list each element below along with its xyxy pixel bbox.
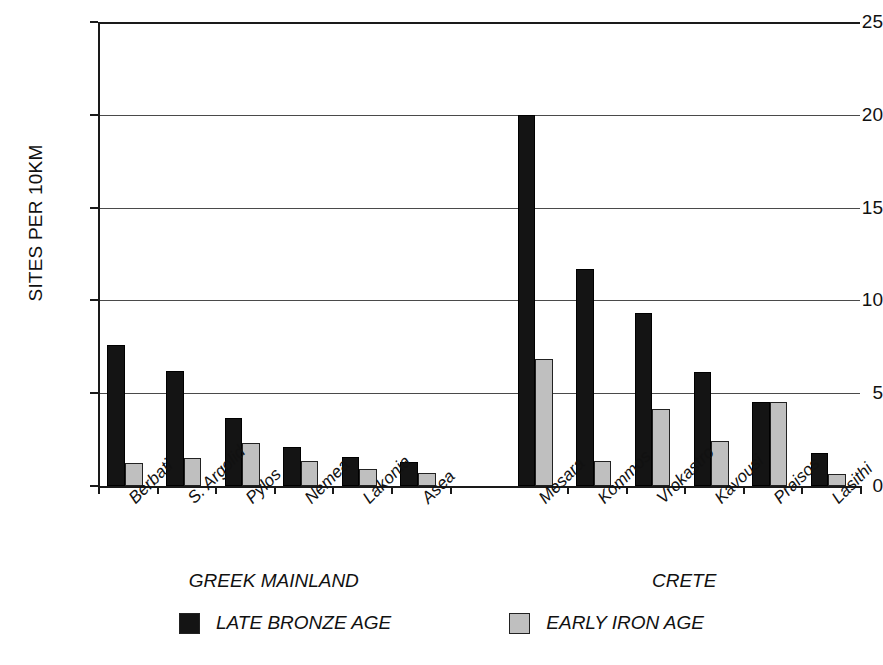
y-tick-mark-15 (90, 207, 98, 209)
bar-late-bronze-age (518, 115, 536, 486)
bar-group (635, 22, 670, 486)
bars-layer (98, 22, 860, 486)
bar-group (342, 22, 377, 486)
legend-item: EARLY IRON AGE (509, 612, 704, 634)
legend-swatch-lba (179, 613, 200, 634)
y-tick-mark-10 (90, 299, 98, 301)
region-label-greek-mainland: GREEK MAINLAND (124, 570, 424, 592)
bar-early-iron-age (535, 359, 553, 486)
legend-swatch-eia (509, 613, 530, 634)
y-tick-mark-25 (90, 21, 98, 23)
bar-group (166, 22, 201, 486)
x-tick-mark (98, 486, 100, 494)
bar-group (576, 22, 611, 486)
legend-item: LATE BRONZE AGE (179, 612, 391, 634)
chart-legend: LATE BRONZE AGEEARLY IRON AGE (0, 612, 883, 634)
legend-label: LATE BRONZE AGE (216, 612, 391, 634)
bar-group (107, 22, 142, 486)
bar-group (400, 22, 435, 486)
bar-group (752, 22, 787, 486)
y-tick-mark-0 (90, 485, 98, 487)
bar-late-bronze-age (576, 269, 594, 486)
bar-late-bronze-age (107, 345, 125, 486)
bar-early-iron-age (770, 402, 788, 486)
region-label-crete: CRETE (534, 570, 834, 592)
y-axis-title: SITES PER 10KM (25, 83, 47, 363)
bar-group (283, 22, 318, 486)
bar-group (811, 22, 846, 486)
bar-group (225, 22, 260, 486)
y-tick-mark-20 (90, 114, 98, 116)
chart-figure: SITES PER 10KM 0510152025 BerbatiS. Argo… (0, 0, 883, 665)
bar-early-iron-age (652, 409, 670, 486)
y-tick-mark-5 (90, 392, 98, 394)
bar-group (694, 22, 729, 486)
bar-late-bronze-age (283, 447, 301, 486)
legend-label: EARLY IRON AGE (546, 612, 704, 634)
bar-group (518, 22, 553, 486)
